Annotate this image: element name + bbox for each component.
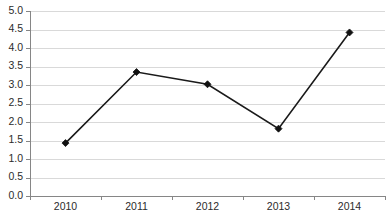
- y-axis-label: 1.5: [8, 133, 23, 145]
- x-axis-label: 2012: [196, 200, 220, 212]
- line-chart: 0.00.51.01.52.02.53.03.54.04.55.0 201020…: [0, 0, 389, 220]
- y-axis-label: 1.0: [8, 152, 23, 164]
- y-axis-label: 0.5: [8, 170, 23, 182]
- x-axis-label: 2011: [125, 200, 148, 212]
- y-axis-label: 2.0: [8, 115, 23, 127]
- x-axis-label: 2010: [54, 200, 78, 212]
- y-axis-label: 5.0: [8, 4, 23, 16]
- y-axis-label: 2.5: [8, 96, 23, 108]
- x-axis-label: 2014: [338, 200, 362, 212]
- y-axis-label: 4.5: [8, 22, 23, 34]
- y-axis-label: 3.5: [8, 59, 23, 71]
- chart-canvas: 0.00.51.01.52.02.53.03.54.04.55.0 201020…: [0, 0, 389, 220]
- chart-background: [0, 0, 389, 220]
- x-axis-label: 2013: [267, 200, 291, 212]
- y-axis-label: 4.0: [8, 41, 23, 53]
- y-axis-label: 3.0: [8, 78, 23, 90]
- y-axis-labels: 0.00.51.01.52.02.53.03.54.04.55.0: [8, 4, 23, 201]
- y-axis-label: 0.0: [8, 189, 23, 201]
